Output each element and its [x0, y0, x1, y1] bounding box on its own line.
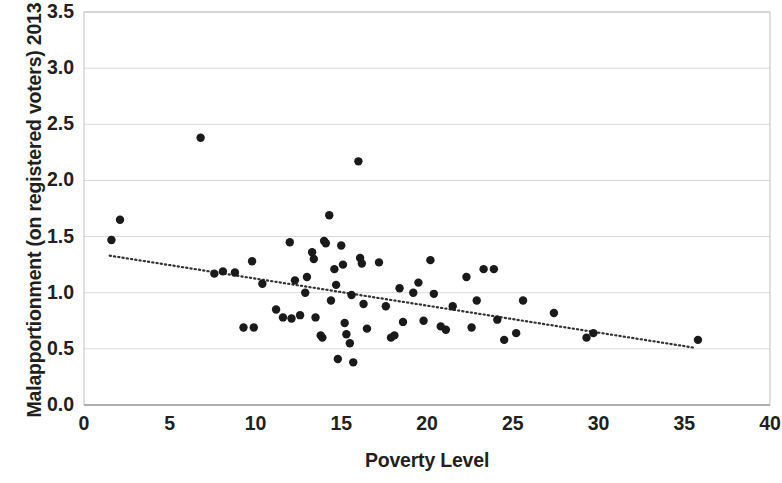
data-point [399, 318, 407, 326]
data-point [303, 273, 311, 281]
data-point [340, 319, 348, 327]
data-point [287, 314, 295, 322]
data-point [322, 239, 330, 247]
data-point [279, 313, 287, 321]
data-point [342, 330, 350, 338]
data-point [346, 339, 354, 347]
x-tick-label: 20 [407, 414, 447, 434]
data-point [337, 241, 345, 249]
data-point [107, 236, 115, 244]
data-point [327, 296, 335, 304]
data-point [490, 265, 498, 273]
data-point [250, 323, 258, 331]
data-point [582, 333, 590, 341]
data-point [375, 258, 383, 266]
data-point [390, 331, 398, 339]
plot-area [0, 0, 782, 483]
axis-frame [84, 12, 770, 405]
data-point [519, 296, 527, 304]
data-point [339, 260, 347, 268]
data-point [258, 280, 266, 288]
x-axis-label: Poverty Level [84, 449, 770, 472]
data-point [349, 358, 357, 366]
data-point [473, 296, 481, 304]
data-point [318, 333, 326, 341]
data-point [358, 259, 366, 267]
data-point [363, 324, 371, 332]
data-point [462, 273, 470, 281]
data-point [430, 290, 438, 298]
x-tick-label: 35 [664, 414, 704, 434]
data-points [107, 134, 702, 367]
data-point [426, 256, 434, 264]
data-point [210, 269, 218, 277]
data-point [449, 302, 457, 310]
data-point [311, 313, 319, 321]
data-point [442, 326, 450, 334]
trendline [110, 256, 695, 348]
data-point [493, 315, 501, 323]
data-point [286, 238, 294, 246]
data-point [347, 291, 355, 299]
data-point [409, 289, 417, 297]
data-point [332, 281, 340, 289]
data-point [310, 255, 318, 263]
data-point [325, 211, 333, 219]
data-point [550, 309, 558, 317]
data-point [196, 134, 204, 142]
x-tick-label: 25 [493, 414, 533, 434]
trendline-path [110, 256, 695, 348]
x-tick-label: 40 [750, 414, 782, 434]
data-point [419, 317, 427, 325]
data-point [479, 265, 487, 273]
data-point [219, 267, 227, 275]
data-point [414, 278, 422, 286]
data-point [395, 284, 403, 292]
data-point [382, 302, 390, 310]
data-point [272, 305, 280, 313]
x-tick-label: 10 [236, 414, 276, 434]
data-point [231, 268, 239, 276]
data-point [512, 329, 520, 337]
x-tick-label: 15 [321, 414, 361, 434]
data-point [296, 311, 304, 319]
data-point [301, 289, 309, 297]
data-point [467, 323, 475, 331]
x-tick-label: 30 [579, 414, 619, 434]
data-point [694, 336, 702, 344]
data-point [359, 300, 367, 308]
data-point [330, 265, 338, 273]
x-tick-label: 5 [150, 414, 190, 434]
scatter-chart-figure: Malapportionment (on registered voters) … [0, 0, 782, 483]
data-point [589, 329, 597, 337]
data-point [291, 276, 299, 284]
data-point [116, 216, 124, 224]
gridlines [84, 12, 770, 405]
data-point [500, 336, 508, 344]
data-point [239, 323, 247, 331]
data-point [248, 257, 256, 265]
data-point [354, 157, 362, 165]
data-point [334, 355, 342, 363]
x-tick-label: 0 [64, 414, 104, 434]
